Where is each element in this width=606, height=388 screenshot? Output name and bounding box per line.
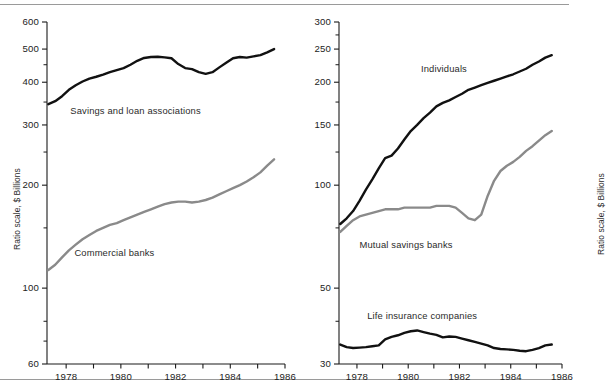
y-tick-label: 30 [297, 358, 331, 369]
y-tick-label: 100 [5, 282, 39, 293]
y-tick-label: 50 [297, 282, 331, 293]
plot-area-right [292, 0, 569, 388]
y-tick-label: 400 [5, 76, 39, 87]
series-line [48, 49, 274, 104]
x-tick-label: 1978 [339, 371, 375, 382]
chart-panel-right: Ratio scale, $ Billions 3002502001501005… [292, 0, 569, 388]
y-tick-label: 100 [297, 179, 331, 190]
chart-panel-left: Ratio scale, $ Billions 6005004003002001… [0, 0, 292, 388]
y-tick-label: 200 [297, 76, 331, 87]
y-axis-title-right: Ratio scale, $ Billions [596, 173, 606, 255]
x-tick-label: 1986 [544, 371, 580, 382]
y-tick-label: 200 [5, 179, 39, 190]
series-line [340, 55, 551, 224]
y-tick-label: 600 [5, 16, 39, 27]
y-tick-label: 60 [5, 358, 39, 369]
y-tick-label: 250 [297, 43, 331, 54]
x-tick-label: 1980 [390, 371, 426, 382]
series-label: Individuals [421, 63, 467, 74]
x-tick-label: 1984 [493, 371, 529, 382]
series-label: Life insurance companies [367, 310, 477, 321]
x-tick-label: 1980 [103, 371, 139, 382]
x-tick-label: 1984 [212, 371, 248, 382]
y-tick-label: 500 [5, 43, 39, 54]
x-tick-label: 1978 [48, 371, 84, 382]
series-line [340, 330, 551, 351]
series-label: Mutual savings banks [360, 239, 453, 250]
series-label: Commercial banks [74, 247, 154, 258]
plot-area-left [0, 0, 292, 388]
y-tick-label: 300 [297, 16, 331, 27]
x-tick-label: 1982 [441, 371, 477, 382]
y-tick-label: 300 [5, 119, 39, 130]
y-tick-label: 150 [297, 119, 331, 130]
series-label: Savings and loan associations [70, 105, 200, 116]
x-tick-label: 1982 [158, 371, 194, 382]
